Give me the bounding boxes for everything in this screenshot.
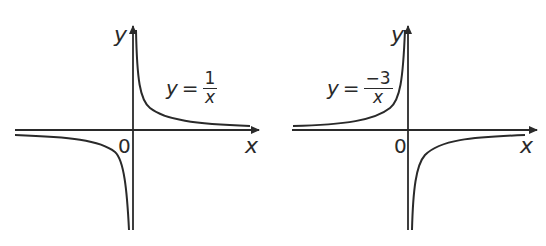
right-curve-branch-q4 <box>412 135 525 230</box>
left-eq-denominator: x <box>205 89 215 107</box>
right-eq-op: = <box>343 76 360 100</box>
right-eq-fraction: −3 x <box>364 70 393 107</box>
left-origin-label: 0 <box>118 136 131 156</box>
left-eq-lhs: y <box>166 76 178 100</box>
left-graph <box>15 26 259 230</box>
right-equation: y = −3 x <box>327 70 393 107</box>
right-graph <box>292 26 537 230</box>
right-x-label: x <box>520 135 533 157</box>
left-y-label: y <box>114 24 127 46</box>
right-y-label: y <box>391 24 404 46</box>
right-eq-denominator: x <box>373 89 383 107</box>
left-eq-op: = <box>182 76 199 100</box>
left-equation: y = 1 x <box>166 70 217 107</box>
left-curve-branch-q3 <box>15 135 129 230</box>
right-origin-label: 0 <box>394 136 407 156</box>
graphs-canvas <box>0 0 546 246</box>
left-eq-fraction: 1 x <box>203 70 218 107</box>
right-eq-lhs: y <box>327 76 339 100</box>
left-x-label: x <box>245 135 258 157</box>
